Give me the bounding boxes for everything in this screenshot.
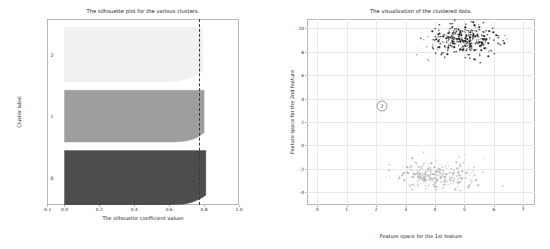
scatter-gridline-v-2	[376, 19, 377, 205]
scatter-y-tick-2: 6	[294, 73, 304, 78]
scatter-y-tick-mark-5	[305, 145, 307, 146]
silhouette-band-cluster-1	[64, 90, 204, 142]
scatter-y-tick-4: 2	[294, 119, 304, 124]
scatter-gridline-h-5	[307, 145, 535, 146]
scatter-x-tick-mark-6	[494, 205, 495, 207]
silhouette-plot-title: The silhouette plot for the various clus…	[47, 8, 239, 14]
scatter-gridline-h-4	[307, 122, 535, 123]
silhouette-band-cluster-2	[64, 27, 202, 82]
scatter-y-tick-7: -4	[294, 190, 304, 195]
silhouette-cluster-label-2: 2	[50, 52, 53, 57]
silhouette-x-tick-2: 0.2	[96, 207, 103, 212]
average-silhouette-threshold-line	[199, 19, 200, 205]
scatter-gridline-v-1	[347, 19, 348, 205]
silhouette-x-tick-3: 0.4	[131, 207, 138, 212]
scatter-x-tick-mark-4	[435, 205, 436, 207]
scatter-y-tick-mark-2	[305, 75, 307, 76]
silhouette-x-tick-5: 0.8	[201, 207, 208, 212]
scatter-y-tick-mark-4	[305, 122, 307, 123]
scatter-x-tick-6: 6	[492, 207, 495, 212]
scatter-y-tick-mark-7	[305, 192, 307, 193]
scatter-y-tick-mark-3	[305, 99, 307, 100]
scatter-gridline-h-1	[307, 52, 535, 53]
scatter-x-tick-1: 1	[345, 207, 348, 212]
silhouette-x-tick-1: 0.0	[61, 207, 68, 212]
scatter-x-tick-4: 4	[434, 207, 437, 212]
scatter-x-tick-mark-0	[317, 205, 318, 207]
scatter-gridline-v-7	[523, 19, 524, 205]
scatter-y-tick-5: 0	[294, 143, 304, 148]
silhouette-plot-axes: 012	[47, 19, 239, 205]
silhouette-x-tick-mark-0	[47, 205, 48, 207]
silhouette-band-cluster-0	[64, 150, 205, 205]
scatter-gridline-v-0	[317, 19, 318, 205]
centroid-marker-2: 2	[377, 101, 388, 112]
scatter-x-tick-0: 0	[316, 207, 319, 212]
scatter-y-tick-6: -2	[294, 166, 304, 171]
scatter-x-tick-3: 3	[404, 207, 407, 212]
silhouette-x-tick-6: 1.0	[236, 207, 243, 212]
silhouette-x-tick-mark-4	[169, 205, 170, 207]
scatter-x-tick-7: 7	[522, 207, 525, 212]
silhouette-x-tick-mark-3	[134, 205, 135, 207]
scatter-y-tick-0: 10	[294, 26, 304, 31]
silhouette-x-tick-mark-2	[99, 205, 100, 207]
scatter-gridline-h-7	[307, 192, 535, 193]
scatter-gridline-h-3	[307, 99, 535, 100]
silhouette-x-axis-label: The silhouette coefficient values	[47, 215, 239, 221]
cluster-scatter-axes: 2	[307, 19, 535, 205]
silhouette-x-tick-mark-6	[239, 205, 240, 207]
matplotlib-figure: 012 The silhouette plot for the various …	[0, 0, 550, 249]
scatter-y-tick-mark-6	[305, 169, 307, 170]
silhouette-bands	[47, 19, 239, 205]
scatter-y-tick-mark-0	[305, 28, 307, 29]
silhouette-x-tick-mark-1	[64, 205, 65, 207]
scatter-x-tick-mark-7	[523, 205, 524, 207]
scatter-x-tick-mark-5	[464, 205, 465, 207]
scatter-x-axis-label: Feature space for the 1st feature	[307, 233, 535, 239]
scatter-y-axis-label: Feature space for the 2nd feature	[289, 70, 295, 154]
scatter-gridline-h-6	[307, 169, 535, 170]
scatter-gridline-v-3	[406, 19, 407, 205]
silhouette-x-tick-0: -0.1	[43, 207, 52, 212]
scatter-gridline-h-0	[307, 28, 535, 29]
scatter-x-tick-mark-2	[376, 205, 377, 207]
scatter-gridline-v-6	[494, 19, 495, 205]
silhouette-x-tick-4: 0.6	[166, 207, 173, 212]
scatter-x-tick-mark-3	[406, 205, 407, 207]
silhouette-cluster-label-0: 0	[50, 175, 53, 180]
silhouette-x-tick-mark-5	[204, 205, 205, 207]
scatter-y-tick-mark-1	[305, 52, 307, 53]
silhouette-y-axis-label: Cluster label	[16, 96, 22, 127]
scatter-x-tick-mark-1	[347, 205, 348, 207]
cluster-scatter-title: The visualization of the clustered data.	[307, 8, 535, 14]
scatter-gridline-h-2	[307, 75, 535, 76]
scatter-y-tick-3: 4	[294, 96, 304, 101]
scatter-y-tick-1: 8	[294, 49, 304, 54]
scatter-x-tick-5: 5	[463, 207, 466, 212]
silhouette-cluster-label-1: 1	[50, 114, 53, 119]
scatter-x-tick-2: 2	[375, 207, 378, 212]
